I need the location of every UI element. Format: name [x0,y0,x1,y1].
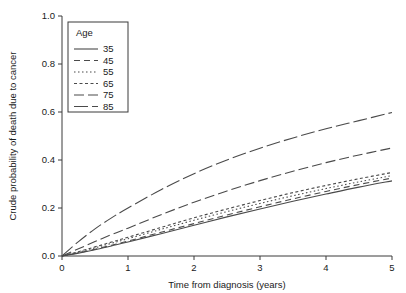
x-tick-label: 3 [257,262,262,273]
x-axis-title: Time from diagnosis (years) [168,279,285,290]
legend-label-45: 45 [103,55,114,66]
crude-probability-line-chart: 0.00.20.40.60.81.0012345 Age354555657585… [0,0,406,293]
x-tick-label: 0 [59,262,64,273]
y-tick-label: 0.0 [42,250,55,261]
legend-label-55: 55 [103,66,114,77]
x-tick-label: 5 [389,262,394,273]
chart-container: 0.00.20.40.60.81.0012345 Age354555657585… [0,0,406,293]
y-tick-label: 0.8 [42,58,55,69]
x-tick-label: 2 [191,262,196,273]
x-tick-label: 4 [323,262,328,273]
y-tick-label: 0.4 [42,154,55,165]
x-tick-label: 1 [125,262,130,273]
chart-background [0,0,406,293]
legend-title: Age [76,27,93,38]
legend-label-35: 35 [103,43,114,54]
y-axis-title: Crude probability of death due to cancer [7,52,18,221]
y-tick-label: 1.0 [42,10,55,21]
legend-label-85: 85 [103,101,114,112]
legend-box: Age354555657585 [68,22,128,112]
y-tick-label: 0.2 [42,202,55,213]
legend-label-75: 75 [103,89,114,100]
legend-label-65: 65 [103,78,114,89]
y-tick-label: 0.6 [42,106,55,117]
